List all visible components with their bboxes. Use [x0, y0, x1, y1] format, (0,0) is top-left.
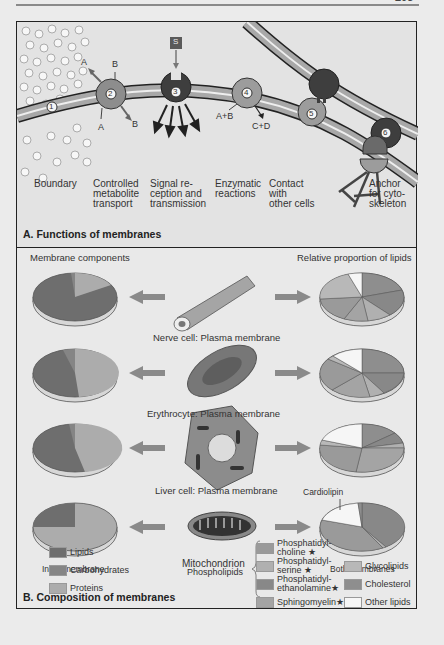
metabolite-a-in: A — [98, 122, 104, 132]
legend-swatch-glycolipids — [344, 561, 362, 572]
function-label-enzymatic: Enzymatic reactions — [215, 179, 261, 199]
legend-label-other-lipids: Other lipids — [365, 598, 411, 607]
legend-swatch-carbohydrates — [49, 565, 67, 576]
pie-liver-lipids — [320, 424, 404, 477]
signal-cascade-arrows-icon — [154, 104, 199, 136]
metabolite-b-in: B — [132, 119, 138, 129]
pie-erythrocyte-components — [33, 349, 119, 402]
row-label-erythrocyte: Erythrocyte: Plasma membrane — [147, 408, 280, 419]
legend-swatch-phosphatidylserine — [256, 561, 274, 572]
function-number-6: 6 — [383, 128, 387, 137]
function-number-3: 3 — [173, 87, 177, 96]
legend-label-cholesterol: Cholesterol — [365, 580, 411, 589]
legend-label-sphingomyelin: Sphingomyelin★ — [277, 598, 344, 607]
row-label-liver: Liver cell: Plasma membrane — [155, 485, 278, 496]
function-label-boundary: Boundary — [34, 179, 77, 189]
pie-liver-components — [33, 424, 122, 477]
panel-functions-of-membranes: 1 2 3 4 5 6 S A B A B A+B C+D Boundary C… — [16, 21, 417, 249]
page-number: 203 — [395, 0, 413, 3]
function-number-2: 2 — [108, 89, 112, 98]
function-number-4: 4 — [244, 88, 248, 97]
function-label-signal: Signal re- ception and transmission — [150, 179, 206, 209]
pie-erythrocyte-lipids — [320, 349, 404, 402]
legend-swatch-sphingomyelin — [256, 597, 274, 608]
pie-nerve-lipids — [320, 273, 404, 326]
legend-swatch-phosphatidylethanolamine — [256, 579, 274, 590]
function-label-transport: Controlled metabolite transport — [93, 179, 139, 209]
running-header: Membranes — [320, 0, 373, 2]
legend-label-phosphatidylserine: Phosphatidyl- serine ★ — [277, 557, 332, 575]
mitochondrion-icon — [188, 512, 256, 540]
legend-swatch-cholesterol — [344, 579, 362, 590]
nerve-axon-icon — [174, 276, 255, 331]
signal-label: S — [173, 37, 178, 46]
membrane-functions-illustration — [17, 22, 418, 250]
row-label-nerve: Nerve cell: Plasma membrane — [153, 332, 280, 343]
legend-swatch-lipids — [49, 547, 67, 558]
cardiolipin-annotation: Cardiolipin — [303, 487, 343, 497]
metabolite-b-out: B — [112, 59, 118, 69]
function-label-anchor: Anchor for cyto- skeleton — [369, 179, 406, 209]
pie-nerve-components — [33, 273, 117, 326]
pie-mito-lipids — [320, 499, 405, 556]
erythrocyte-icon — [179, 335, 265, 408]
legend-phospholipids-group: Phospholipids — [187, 568, 243, 577]
legend-label-carbohydrates: Carbohydrates — [70, 566, 129, 575]
adhesion-protein-partner-icon — [309, 69, 339, 99]
panel-composition-of-membranes: Membrane components Relative proportion … — [16, 247, 417, 609]
left-column-header: Membrane components — [30, 252, 130, 263]
legend-label-phosphatidylcholine: Phosphatidyl- choline ★ — [277, 539, 332, 557]
products-label: C+D — [252, 121, 270, 131]
right-column-header: Relative proportion of lipids — [297, 252, 412, 263]
panel-a-caption: A. Functions of membranes — [23, 228, 161, 240]
legend-label-phosphatidylethanolamine: Phosphatidyl- ethanolamine★ — [277, 575, 339, 593]
function-label-contact: Contact with other cells — [269, 179, 315, 209]
legend-label-lipids: Lipids — [70, 548, 94, 557]
substrates-label: A+B — [216, 111, 233, 121]
function-number-5: 5 — [309, 109, 313, 118]
panel-b-caption: B. Composition of membranes — [23, 591, 175, 603]
legend-label-glycolipids: Glycolipids — [365, 562, 409, 571]
legend-swatch-other-lipids — [344, 597, 362, 608]
function-number-1: 1 — [49, 102, 53, 111]
metabolite-a-out: A — [81, 57, 87, 67]
legend-swatch-phosphatidylcholine — [256, 543, 274, 554]
